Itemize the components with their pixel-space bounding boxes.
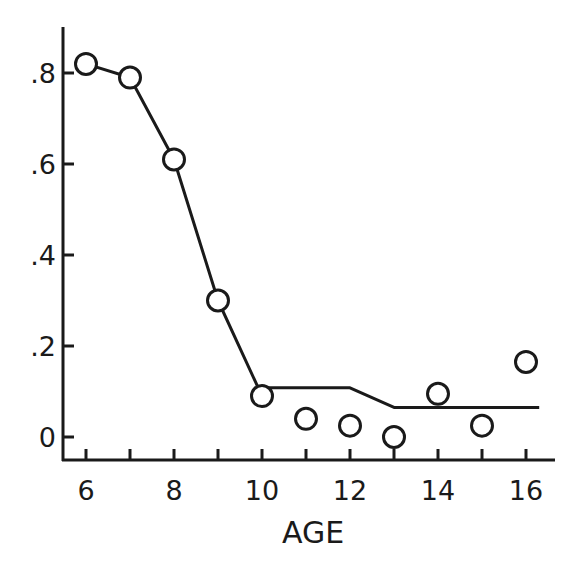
x-tick-label: 10	[245, 475, 279, 506]
data-point-age-9	[208, 290, 229, 311]
x-tick-label: 8	[165, 475, 182, 506]
y-tick-label: .4	[30, 240, 56, 271]
x-tick-label: 14	[421, 475, 455, 506]
axes	[62, 27, 555, 461]
data-point-age-16	[516, 351, 537, 372]
fitted-line	[86, 64, 539, 408]
data-point-age-14	[428, 383, 449, 404]
data-point-age-6	[76, 53, 97, 74]
data-point-age-13	[384, 427, 405, 448]
y-tick-label: .6	[30, 149, 56, 180]
y-ticks: 0.2.4.6.8	[30, 58, 74, 453]
y-tick-label: .2	[30, 331, 56, 362]
data-point-age-15	[472, 415, 493, 436]
x-ticks: 6810121416	[77, 449, 543, 506]
data-point-age-10	[252, 386, 273, 407]
data-point-age-11	[296, 408, 317, 429]
fitted-line-path	[86, 64, 539, 408]
data-point-age-8	[164, 149, 185, 170]
y-tick-label: .8	[30, 58, 56, 89]
x-tick-label: 16	[509, 475, 543, 506]
x-tick-label: 6	[77, 475, 94, 506]
data-point-age-12	[340, 415, 361, 436]
x-tick-label: 12	[333, 475, 367, 506]
data-point-age-7	[120, 67, 141, 88]
y-tick-label: 0	[39, 422, 56, 453]
x-axis-title: AGE	[282, 515, 344, 550]
line-chart: 0.2.4.6.8 6810121416 AGE	[0, 0, 577, 566]
